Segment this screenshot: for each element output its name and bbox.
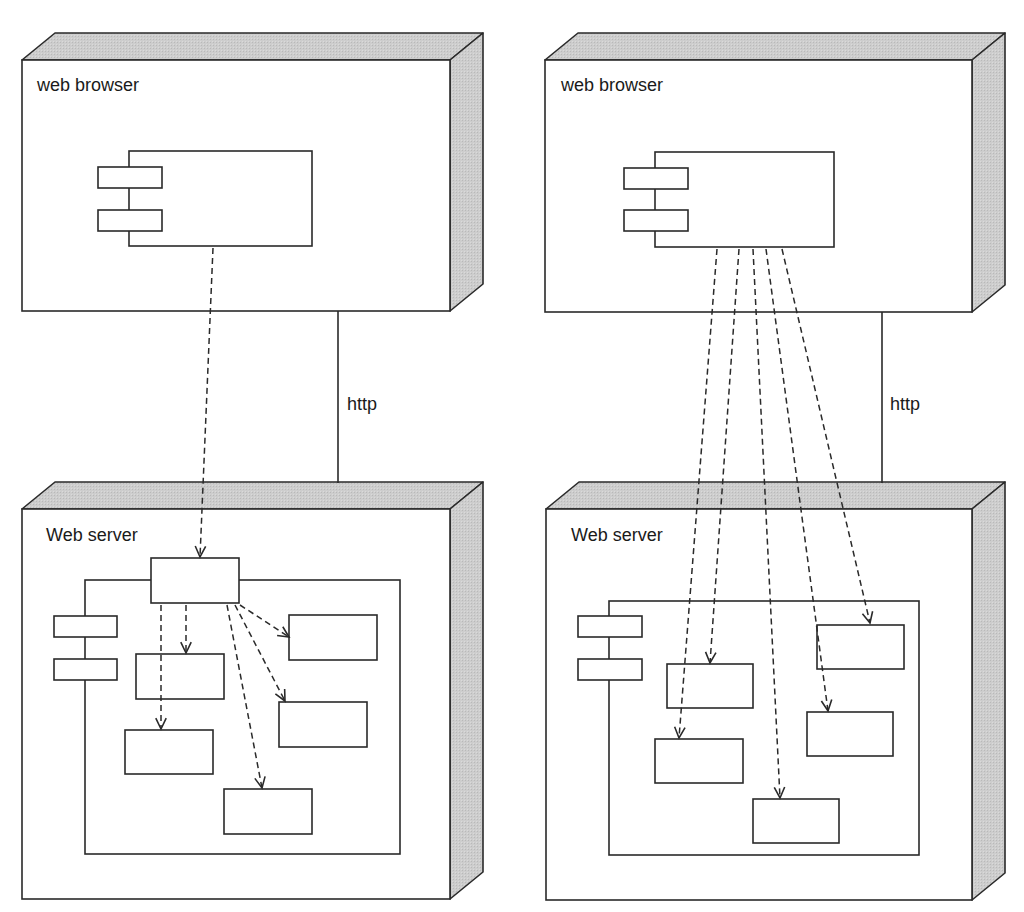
class-box — [807, 712, 893, 756]
front-end-component: Web front end — [98, 151, 312, 246]
component-port-icon — [54, 616, 117, 637]
facade-box: Facade — [151, 558, 239, 603]
node-side-face — [450, 482, 483, 899]
component-port-icon — [54, 659, 117, 680]
node-top-face — [22, 482, 483, 509]
node-top-face — [546, 482, 1005, 509]
browser-node-label: web browser — [560, 75, 663, 95]
server-node-label: Web server — [571, 525, 663, 545]
component-port-icon — [578, 659, 642, 680]
class-box — [136, 654, 224, 699]
class-box — [753, 799, 839, 843]
facade-deployment-diagram: http Web front end Facade web browser We… — [22, 33, 483, 899]
server-node-label: Web server — [46, 525, 138, 545]
class-box — [667, 664, 753, 708]
component-port-icon — [98, 167, 162, 188]
component-port-icon — [98, 210, 162, 231]
component-body — [655, 152, 834, 247]
http-label: http — [347, 394, 377, 414]
class-box — [655, 739, 743, 783]
node-top-face — [22, 33, 483, 60]
class-box — [817, 625, 904, 669]
http-connection: http — [338, 311, 377, 483]
class-box — [125, 730, 213, 774]
browser-node-label: web browser — [36, 75, 139, 95]
http-label: http — [890, 394, 920, 414]
node-side-face — [972, 482, 1005, 900]
direct-deployment-diagram: http Web front end web browser Web serve… — [545, 33, 1005, 900]
component-port-icon — [624, 168, 688, 189]
class-box — [224, 789, 312, 834]
component-port-icon — [624, 210, 688, 231]
front-end-component: Web front end — [624, 152, 834, 247]
class-box — [279, 702, 367, 747]
class-box — [289, 615, 377, 660]
node-side-face — [450, 33, 483, 311]
node-top-face — [545, 33, 1005, 60]
deployment-diagram-canvas: http Web front end Facade web browser We… — [0, 0, 1024, 912]
node-side-face — [972, 33, 1005, 312]
http-connection: http — [882, 312, 920, 483]
component-port-icon — [578, 616, 642, 637]
facade-rect — [151, 558, 239, 603]
